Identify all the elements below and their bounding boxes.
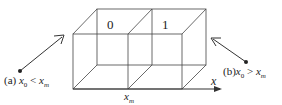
arrow-b — [213, 39, 246, 62]
cell-1-label: 1 — [162, 17, 169, 33]
box-diagram — [0, 0, 282, 105]
cell-0-label: 0 — [107, 17, 114, 33]
point-b-label: (b)x0 > xm — [223, 65, 266, 80]
boundary-label: xm — [124, 90, 134, 105]
point-a-icon — [18, 69, 22, 73]
front-face — [73, 34, 182, 89]
point-a-label: (a) x0 < xm — [4, 74, 49, 89]
point-b-icon — [244, 60, 248, 64]
axis-label: x — [211, 74, 216, 89]
arrow-a — [20, 37, 62, 71]
